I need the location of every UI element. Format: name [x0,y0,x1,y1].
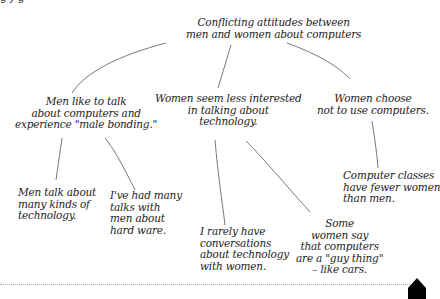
leaf-talks-hardware: I've had many talks with men about hard … [110,190,182,236]
page-marker-base [408,288,426,299]
leaf-guy-thing: Some women say that computers are a "guy… [296,218,383,276]
leaf-rarely-conversations: I rarely have conversations about techno… [200,226,289,272]
dotted-divider [0,284,410,285]
link-root-women-less [218,45,231,88]
leaf-men-talk-kinds: Men talk about many kinds of technology. [18,187,96,222]
branch-women-choose: Women choose not to use computers. [317,93,429,116]
branch-men-bonding: Men like to talk about computers and exp… [15,96,157,131]
link-women-rarely [215,140,225,225]
link-root-women-choose [287,43,350,79]
link-men-kinds [56,138,62,180]
leaf-computer-classes: Computer classes have fewer women than m… [343,170,440,205]
link-root-men [72,43,166,93]
root-node: Conflicting attitudes between men and wo… [186,17,361,40]
branch-women-less-interested: Women seem less interested in talking ab… [155,93,302,128]
link-men-hardware [105,138,135,190]
page-marker-icon [408,278,426,288]
link-women-guything [246,141,310,212]
link-choose-classes [372,121,378,168]
